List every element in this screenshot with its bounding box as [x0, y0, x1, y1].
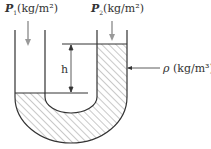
density-label: ρ (kg/m³): [163, 63, 211, 75]
p1-unit: (kg/m²): [17, 2, 58, 15]
p1-arrow: [25, 21, 31, 46]
p1-label: P1(kg/m²): [5, 3, 58, 19]
density-pointer-arrow: [127, 66, 160, 70]
density-symbol: ρ: [163, 62, 169, 75]
h-dimension-arrow: [69, 45, 73, 92]
p2-unit: (kg/m²): [103, 2, 144, 15]
p2-arrow: [109, 21, 115, 41]
density-unit: (kg/m³): [173, 62, 211, 75]
p2-label: P2(kg/m²): [91, 3, 144, 19]
height-label: h: [61, 64, 68, 76]
